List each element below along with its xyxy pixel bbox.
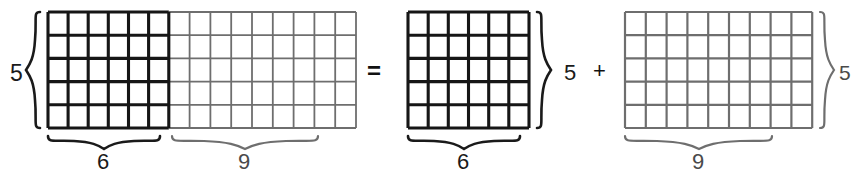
combined-array	[26, 12, 356, 149]
combined-cols-dark-brace	[48, 136, 160, 149]
first-partial-rows-label: 5	[564, 62, 576, 84]
equals-sign: =	[367, 59, 381, 83]
combined-cols-light-label: 9	[238, 151, 250, 173]
array-diagram-svg	[0, 0, 857, 173]
diagram-canvas: 5 6 9 = 5 6 + 5 9	[0, 0, 857, 173]
second-partial-cols-brace	[625, 136, 772, 149]
first-partial-cols-label: 6	[457, 151, 469, 173]
first-partial-array	[408, 12, 529, 128]
second-partial-rows-brace	[820, 12, 834, 128]
combined-rows-label: 5	[10, 62, 23, 85]
plus-sign: +	[593, 60, 606, 82]
combined-cols-light-brace	[172, 136, 318, 149]
first-partial-rows-brace	[537, 12, 551, 128]
second-partial-rows-label: 5	[839, 62, 851, 83]
combined-array-light-segment	[169, 12, 356, 128]
combined-array-dark-segment	[48, 12, 169, 128]
second-partial-cols-label: 9	[692, 151, 704, 173]
first-partial-cols-brace	[408, 136, 520, 149]
combined-cols-dark-label: 6	[97, 151, 109, 173]
combined-rows-brace	[26, 12, 40, 128]
second-partial-array	[625, 12, 812, 128]
